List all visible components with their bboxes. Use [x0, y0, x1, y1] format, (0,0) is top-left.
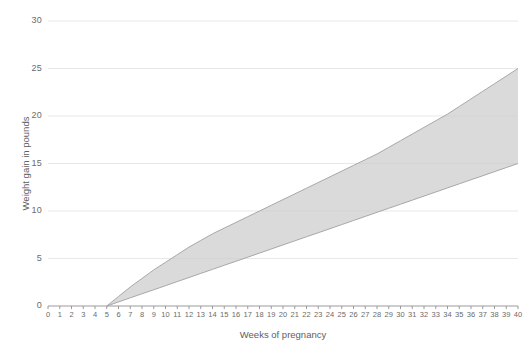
x-axis-tick-label: 40	[510, 311, 526, 319]
y-axis-tick-label: 25	[18, 64, 42, 73]
x-axis	[48, 306, 518, 309]
chart-plot-area	[0, 0, 532, 353]
y-axis-tick-label: 5	[18, 254, 42, 263]
x-axis-title: Weeks of pregnancy	[48, 329, 518, 340]
y-axis-tick-label: 0	[18, 301, 42, 310]
weight-gain-band	[107, 69, 518, 307]
weight-gain-range-chart: 051015202530 012345678910111213141516171…	[0, 0, 532, 353]
y-axis-tick-label: 30	[18, 16, 42, 25]
y-axis-title: Weight gain in pounds	[20, 94, 31, 234]
